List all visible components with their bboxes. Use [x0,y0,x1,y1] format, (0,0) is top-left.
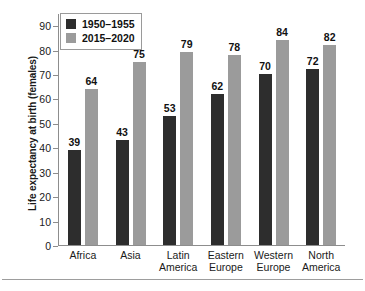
gray-square-swatch [66,33,76,43]
x-axis-line [58,245,345,246]
y-tick-mark [53,148,58,149]
legend-item-label: 2015–2020 [82,32,135,44]
legend-item: 2015–2020 [66,31,135,45]
y-tick-mark [53,75,58,76]
bar-value-label: 39 [68,136,80,148]
bar-group: 5379 [154,14,202,245]
bar: 75 [133,62,146,245]
y-tick-label: 90 [39,20,51,32]
y-tick-label: 80 [39,45,51,57]
bar-value-label: 82 [324,31,336,43]
y-tick-label: 0 [45,240,51,252]
y-tick-mark [53,124,58,125]
bar: 82 [323,45,336,245]
bar-value-label: 72 [307,55,319,67]
bar: 78 [228,55,241,245]
x-axis-category-labels: AfricaAsiaLatinAmericaEasternEuropeWeste… [59,249,345,273]
y-tick-mark [53,173,58,174]
y-tick-mark [53,26,58,27]
bar: 39 [68,150,81,245]
y-tick-label: 40 [39,142,51,154]
y-tick-mark [53,222,58,223]
bar-value-label: 79 [181,38,193,50]
legend-item-label: 1950–1955 [82,18,135,30]
y-tick-mark [53,197,58,198]
bar: 43 [116,140,129,245]
bar: 70 [259,74,272,245]
y-tick-label: 60 [39,93,51,105]
bar-value-label: 70 [259,60,271,72]
x-category-label: LatinAmerica [154,249,202,273]
y-tick-label: 20 [39,191,51,203]
y-tick-label: 30 [39,167,51,179]
x-category-label: Asia [107,249,155,273]
y-axis-title: Life expectancy at birth (females) [27,34,38,234]
bar: 72 [306,69,319,245]
x-category-label: EasternEurope [202,249,250,273]
bar: 53 [163,116,176,245]
y-tick-label: 50 [39,118,51,130]
bar-value-label: 53 [164,102,176,114]
legend-item: 1950–1955 [66,17,135,31]
chart-legend: 1950–1955 2015–2020 [60,13,142,50]
y-tick-mark [53,246,58,247]
x-category-label: NorthAmerica [297,249,345,273]
y-tick-label: 70 [39,69,51,81]
bar-group: 7282 [297,14,345,245]
bar-chart-figure: Life expectancy at birth (females) 01020… [0,0,365,291]
x-category-label: Africa [59,249,107,273]
bar-group: 6278 [202,14,250,245]
footer-divider [2,279,363,280]
bar: 79 [180,52,193,245]
bar: 84 [276,40,289,245]
bar: 64 [85,89,98,245]
y-tick-mark [53,51,58,52]
bar-value-label: 64 [85,75,97,87]
y-tick-label: 10 [39,216,51,228]
y-tick-mark [53,99,58,100]
bar-value-label: 62 [212,80,224,92]
dark-square-swatch [66,19,76,29]
bar-value-label: 84 [276,26,288,38]
bar: 62 [211,94,224,245]
bar-value-label: 78 [229,41,241,53]
bar-group: 7084 [250,14,298,245]
bar-value-label: 43 [116,126,128,138]
x-category-label: WesternEurope [250,249,298,273]
